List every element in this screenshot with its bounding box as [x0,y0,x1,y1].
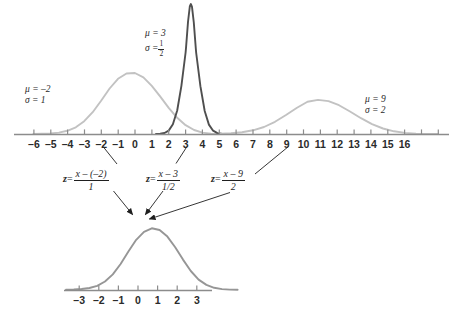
curve-middle-mu: μ = 3 [145,28,166,39]
normal-distribution-z-score-diagram: μ = –2 σ = 1 μ = 3 σ =12 μ = 9 σ = 2 –6 … [0,0,463,322]
curve-middle-path [156,4,226,134]
formula-middle: z=x – 31/2 [146,168,181,192]
top-tick-label-10: 10 [298,138,310,150]
curve-middle-sigma-symbol: σ = [145,43,158,53]
curve-standard-path [66,228,238,289]
curve-right-path [220,100,438,134]
top-tick-label-2: 2 [166,138,172,150]
formula-middle-equals: = [150,173,156,184]
formula-right-denominator: 2 [222,181,245,193]
formula-middle-denominator: 1/2 [157,181,180,193]
bottom-tick-label--2: –2 [93,294,105,306]
top-tick-label-8: 8 [267,138,273,150]
curve-left-mu: μ = –2 [25,84,50,95]
bottom-tick-label--1: –1 [113,294,125,306]
formula-left: z=x – (–2)1 [63,168,110,192]
formula-right-numerator: x – 9 [222,168,245,181]
top-tick-label--6: –6 [28,138,40,150]
curve-middle-sigma-denominator: 2 [158,50,164,59]
bottom-tick-label-2: 2 [174,294,180,306]
top-tick-label-13: 13 [348,138,360,150]
top-tick-label--2: –2 [95,138,107,150]
formula-middle-fraction: x – 31/2 [157,168,180,192]
formula-right: z=x – 92 [211,168,246,192]
formula-middle-numerator: x – 3 [157,168,180,181]
top-tick-label-15: 15 [382,138,394,150]
top-tick-label-7: 7 [250,138,256,150]
diagram-canvas [0,0,463,322]
formula-left-denominator: 1 [74,181,109,193]
top-tick-label-0: 0 [132,138,138,150]
top-tick-label--1: –1 [112,138,124,150]
arrow-middle-to-standard [146,191,164,215]
top-tick-label-16: 16 [399,138,411,150]
top-tick-label-6: 6 [233,138,239,150]
top-tick-label-11: 11 [315,138,326,150]
top-tick-label-12: 12 [331,138,343,150]
top-axis-ticks [34,129,438,134]
formula-right-fraction: x – 92 [222,168,245,192]
bottom-tick-label-1: 1 [155,294,161,306]
curve-right-sigma: σ = 2 [365,105,386,116]
bottom-tick-label-3: 3 [194,294,200,306]
curve-right-mu: μ = 9 [365,94,386,105]
top-tick-label-5: 5 [216,138,222,150]
formula-left-numerator: x – (–2) [74,168,109,181]
top-tick-label-14: 14 [365,138,377,150]
curve-right-parameter-label: μ = 9 σ = 2 [365,94,386,116]
curve-middle-parameter-label: μ = 3 σ =12 [145,28,166,58]
bottom-tick-label-0: 0 [135,294,141,306]
curve-left-sigma: σ = 1 [25,95,50,106]
top-tick-label--4: –4 [62,138,74,150]
curve-middle-sigma-fraction: 12 [158,40,164,58]
formula-left-fraction: x – (–2)1 [74,168,109,192]
curve-left-parameter-label: μ = –2 σ = 1 [25,84,50,106]
top-tick-label--3: –3 [79,138,91,150]
arrow-right-to-standard [150,193,231,220]
top-tick-label--5: –5 [45,138,57,150]
top-tick-label-4: 4 [199,138,205,150]
curve-middle-sigma: σ =12 [145,40,166,58]
top-tick-label-9: 9 [284,138,290,150]
leader-line-right [255,147,289,175]
bottom-tick-label--3: –3 [73,294,85,306]
formula-left-equals: = [67,173,73,184]
formula-right-equals: = [215,173,221,184]
curve-left-path [33,73,228,134]
arrow-left-to-standard [114,191,133,215]
top-tick-label-3: 3 [183,138,189,150]
top-tick-label-1: 1 [149,138,155,150]
